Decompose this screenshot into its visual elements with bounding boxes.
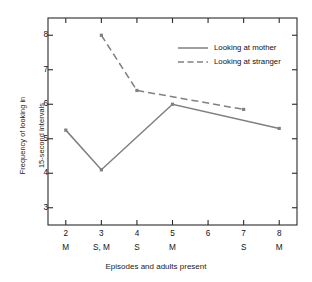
series-vertex-1-1	[135, 89, 138, 92]
series-marker-1-2	[242, 108, 245, 111]
series-vertex-0-2	[171, 103, 174, 106]
series-marker-1-0	[100, 34, 103, 37]
series-marker-0-0	[64, 129, 67, 132]
series-marker-0-3	[278, 127, 281, 130]
series-line-looking-at-mother	[66, 104, 279, 170]
legend-label-looking-at-stranger: Looking at stranger	[214, 58, 281, 66]
chart-figure: Frequency of looking in 15-second interv…	[0, 0, 312, 282]
series-vertex-0-1	[100, 168, 103, 171]
legend-label-looking-at-mother: Looking at mother	[214, 44, 276, 52]
